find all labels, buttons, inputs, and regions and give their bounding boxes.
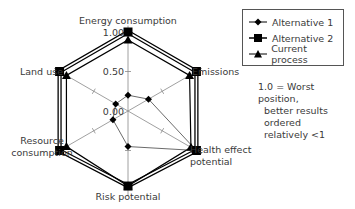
scale-note: 1.0 = Worst position, better results ord… [258, 81, 353, 141]
tick-label: 0.00 [103, 106, 124, 117]
tick-label: 1.00 [103, 27, 124, 38]
diamond-marker [109, 116, 116, 123]
diamond-marker-icon [249, 17, 267, 27]
tick-mark [92, 89, 95, 94]
legend-label: Alternative 2 [272, 33, 333, 44]
axis-label-resource-consumption: Resource [20, 135, 64, 146]
axis-label-land-use: Land use [20, 66, 63, 77]
axis-label-health-effect-potential: potential [190, 156, 232, 167]
note-line: 1.0 = Worst position, [258, 81, 353, 105]
axis-label-health-effect-potential: Health effect [190, 144, 252, 155]
legend-item-alternative-1: Alternative 1 [249, 15, 333, 29]
diamond-marker [125, 143, 132, 150]
axis-label-risk-potential: Risk potential [96, 191, 161, 202]
axis-label-resource-consumption: consumption [11, 147, 73, 158]
series-alternative-1 [113, 95, 196, 150]
legend-label: Current process [271, 43, 343, 65]
legend: Alternative 1 Alternative 2 Current proc… [242, 9, 344, 66]
axis-label-emissions: Emissions [192, 66, 239, 77]
square-marker-icon [249, 33, 267, 43]
axis-label-energy-consumption: Energy consumption [79, 15, 177, 26]
tick-mark [161, 89, 164, 94]
legend-label: Alternative 1 [272, 17, 333, 28]
tick-mark [92, 128, 95, 133]
triangle-marker [124, 35, 133, 43]
legend-item-current-process: Current process [249, 47, 343, 61]
note-line: better results ordered [258, 105, 353, 129]
triangle-marker-icon [249, 49, 266, 59]
diamond-marker [125, 92, 132, 99]
note-line: relatively <1 [258, 129, 353, 141]
tick-label: 0.50 [103, 66, 124, 77]
square-marker [124, 28, 133, 37]
tick-mark [161, 128, 164, 133]
